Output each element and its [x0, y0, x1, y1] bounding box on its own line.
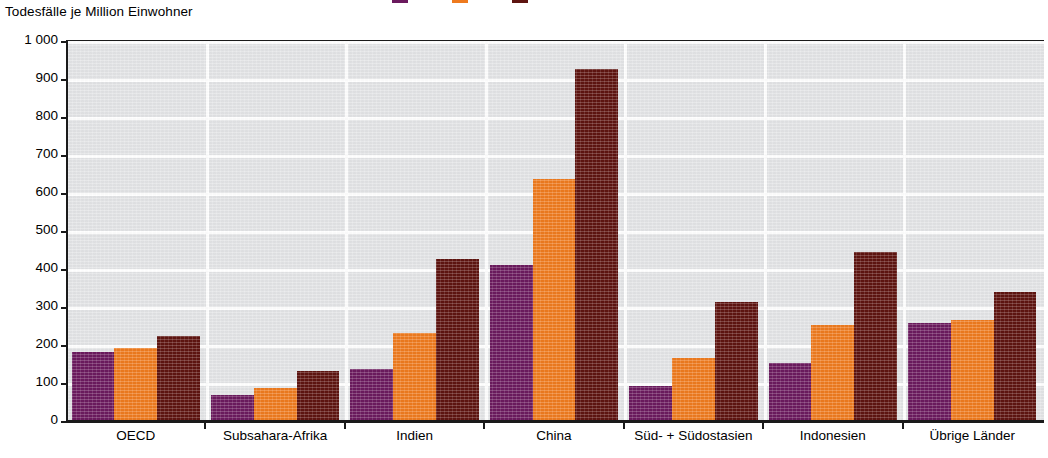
bar: [994, 292, 1037, 420]
bar: [350, 369, 393, 420]
x-axis-category-label: OECD: [66, 428, 205, 444]
y-axis-tick-mark: [61, 117, 68, 119]
bar: [114, 348, 157, 420]
x-axis-category-label: Indien: [345, 428, 484, 444]
bar: [908, 323, 951, 420]
y-axis-tick-label: 100: [0, 375, 58, 389]
gridline-horizontal: [68, 155, 1044, 158]
y-axis-tick-label: 0: [0, 413, 58, 427]
y-axis-tick-label: 800: [0, 109, 58, 123]
y-axis-tick-mark: [61, 155, 68, 157]
bar: [490, 265, 533, 420]
y-axis-tick-label: 1 000: [0, 33, 58, 47]
x-axis-category-label: China: [484, 428, 623, 444]
bar: [672, 358, 715, 420]
y-axis-tick-mark: [61, 231, 68, 233]
y-axis-tick-label: 900: [0, 71, 58, 85]
gridline-vertical: [764, 41, 767, 421]
y-axis-tick-mark: [61, 345, 68, 347]
x-axis-category-label: Übrige Länder: [903, 428, 1042, 444]
axis-title: Todesfälle je Million Einwohner: [5, 4, 193, 19]
bar: [157, 336, 200, 420]
y-axis-tick-label: 700: [0, 147, 58, 161]
bar: [811, 325, 854, 420]
gridline-vertical: [903, 41, 906, 421]
gridline-vertical: [345, 41, 348, 421]
bar: [393, 333, 436, 420]
bar: [629, 386, 672, 420]
bar: [297, 371, 340, 420]
y-axis-tick-label: 500: [0, 223, 58, 237]
bar: [254, 388, 297, 420]
bar: [211, 395, 254, 420]
legend-color-swatch: [392, 0, 408, 3]
y-axis-tick-label: 200: [0, 337, 58, 351]
bar: [575, 69, 618, 421]
bar: [436, 259, 479, 421]
x-axis-group-tick: [902, 420, 904, 429]
x-axis-group-tick: [762, 420, 764, 429]
legend-color-swatch: [452, 0, 468, 3]
y-axis-tick-mark: [61, 307, 68, 309]
y-axis-tick-label: 600: [0, 185, 58, 199]
y-axis-tick-mark: [61, 383, 68, 385]
gridline-vertical: [206, 41, 209, 421]
y-axis-tick-mark: [61, 193, 68, 195]
y-axis-tick-label: 400: [0, 261, 58, 275]
y-axis-tick-mark: [61, 269, 68, 271]
x-axis-group-tick: [344, 420, 346, 429]
x-axis-category-label: Süd- + Südostasien: [624, 428, 763, 444]
bar: [715, 302, 758, 420]
gridline-horizontal: [68, 79, 1044, 82]
x-axis-line: [66, 420, 1044, 423]
y-axis-tick-mark: [61, 41, 68, 43]
gridline-horizontal: [68, 41, 1044, 44]
x-axis-group-tick: [204, 420, 206, 429]
gridline-vertical: [624, 41, 627, 421]
x-axis-category-label: Indonesien: [763, 428, 902, 444]
y-axis-tick-label: 300: [0, 299, 58, 313]
bar: [72, 352, 115, 420]
y-axis-tick-mark: [61, 79, 68, 81]
bar: [854, 252, 897, 420]
gridline-vertical: [485, 41, 488, 421]
bar: [769, 363, 812, 420]
bar: [533, 179, 576, 420]
x-axis-group-tick: [623, 420, 625, 429]
gridline-horizontal: [68, 117, 1044, 120]
x-axis-category-label: Subsahara-Afrika: [205, 428, 344, 444]
x-axis-group-tick: [483, 420, 485, 429]
legend-color-swatch: [512, 0, 528, 3]
bar: [951, 320, 994, 420]
